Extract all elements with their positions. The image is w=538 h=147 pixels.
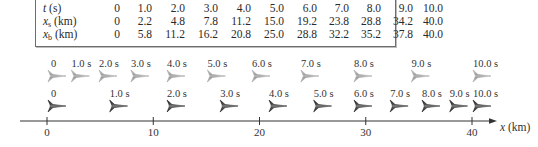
time-label: 6.0 s [354, 88, 374, 99]
position-diagram: 01.0 s2.0 s3.0 s4.0 s5.0 s6.0 s7.0 s8.0 … [0, 0, 538, 147]
time-label: 4.0 s [167, 58, 187, 69]
time-label: 3.0 s [220, 88, 240, 99]
time-label: 5.0 s [314, 88, 334, 99]
time-label: 7.0 s [301, 58, 321, 69]
time-label: 9.0 s [411, 58, 431, 69]
time-label: 4.0 s [269, 88, 289, 99]
time-label: 3.0 s [131, 58, 151, 69]
time-label: 7.0 s [390, 88, 410, 99]
time-label: 8.0 s [422, 88, 442, 99]
x-axis: x (km) 010203040 [20, 117, 531, 138]
time-label: 0 [51, 58, 56, 69]
time-label: 5.0 s [207, 58, 227, 69]
x-tick-label: 0 [44, 126, 50, 138]
x-tick-label: 40 [467, 126, 479, 138]
time-label: 2.0 s [167, 88, 187, 99]
time-label: 0 [51, 88, 56, 99]
x-axis-label: x (km) [499, 121, 531, 134]
series-xb-planes: 01.0 s2.0 s3.0 s4.0 s5.0 s6.0 s7.0 s8.0 … [48, 88, 498, 112]
time-label: 1.0 s [71, 58, 91, 69]
time-label: 10.0 s [473, 88, 498, 99]
x-tick-label: 10 [148, 126, 160, 138]
time-label: 1.0 s [110, 88, 130, 99]
time-label: 8.0 s [354, 58, 374, 69]
time-label: 9.0 s [450, 88, 470, 99]
x-tick-label: 20 [254, 126, 266, 138]
series-xs-planes: 01.0 s2.0 s3.0 s4.0 s5.0 s6.0 s7.0 s8.0 … [48, 58, 498, 82]
x-axis-arrow-icon [489, 118, 497, 123]
time-label: 6.0 s [252, 58, 272, 69]
x-tick-label: 30 [360, 126, 372, 138]
time-label: 10.0 s [473, 58, 498, 69]
time-label: 2.0 s [99, 58, 119, 69]
